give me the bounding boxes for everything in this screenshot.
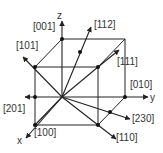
vector-112: [62, 27, 91, 97]
vector-111: [98, 50, 119, 67]
direction-vectors: [23, 27, 130, 139]
axis-label-y: y: [150, 92, 155, 103]
label-230: [230]: [132, 113, 154, 124]
label-112: [112]: [94, 19, 116, 30]
vector-100: [35, 97, 62, 125]
vector-101: [23, 57, 62, 97]
axis-label-z: z: [57, 10, 62, 21]
axis-label-x: x: [17, 135, 22, 146]
vector-111-base: [62, 67, 98, 97]
label-010: [010]: [130, 79, 152, 90]
label-001: [001]: [33, 21, 55, 32]
label-100: [100]: [34, 127, 56, 138]
label-101: [101]: [16, 40, 38, 51]
label-111: [111]: [117, 56, 138, 67]
vector-110: [62, 97, 116, 139]
label-201: [201]: [3, 103, 25, 114]
crystal-direction-diagram: z y x [001] [112] [101] [111] [010] [201…: [0, 0, 163, 153]
label-110: [110]: [116, 132, 138, 143]
vector-230: [62, 97, 130, 119]
